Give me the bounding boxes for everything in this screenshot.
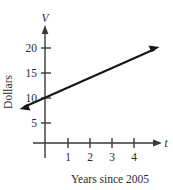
y-axis-title: Dollars (2, 75, 14, 109)
x-tick-label-2: 2 (87, 151, 93, 163)
y-axis-variable-label: V (41, 12, 50, 24)
y-tick-label-20: 20 (26, 42, 38, 54)
y-tick-label-10: 10 (26, 92, 38, 104)
y-axis-arrowhead (42, 25, 49, 34)
data-line-series-v (24, 49, 155, 107)
x-tick-label-3: 3 (109, 151, 115, 163)
chart-caption: Years since 2005 (71, 173, 149, 185)
x-axis-arrowhead (153, 140, 162, 147)
coordinate-plane-svg: V t 20 15 10 5 1 2 3 4 Dollars Years sin… (0, 0, 173, 190)
y-tick-label-15: 15 (26, 67, 38, 79)
graph-figure: V t 20 15 10 5 1 2 3 4 Dollars Years sin… (0, 0, 173, 190)
y-tick-label-5: 5 (31, 117, 37, 129)
x-tick-label-1: 1 (65, 151, 71, 163)
x-axis-variable-label: t (164, 137, 168, 149)
x-tick-label-4: 4 (131, 151, 137, 163)
